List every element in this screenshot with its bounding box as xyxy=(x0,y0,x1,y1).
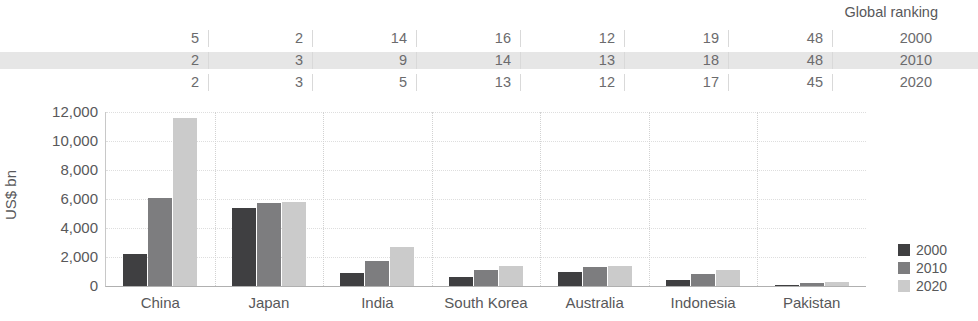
ranking-header-blank-6 xyxy=(729,4,833,24)
bar[interactable] xyxy=(583,267,607,286)
y-tick-label: 10,000 xyxy=(20,133,98,148)
y-tick-label: 2,000 xyxy=(20,249,98,264)
bar-group xyxy=(123,112,197,286)
ranking-header-blank-5 xyxy=(625,4,729,24)
plot-area: ChinaJapanIndiaSouth KoreaAustraliaIndon… xyxy=(105,112,866,287)
bar[interactable] xyxy=(825,282,849,286)
ranking-header-blank-2 xyxy=(313,4,417,24)
chart-area: US$ bn 02,0004,0006,0008,00010,00012,000… xyxy=(0,100,978,321)
bar[interactable] xyxy=(148,198,172,286)
bar[interactable] xyxy=(123,254,147,286)
bar[interactable] xyxy=(716,270,740,286)
ranking-header-blank-4 xyxy=(521,4,625,24)
rank-cell-pakistan-2000: 48 xyxy=(729,30,833,47)
x-axis-category-label: Australia xyxy=(540,294,649,311)
x-axis-category-label: Japan xyxy=(215,294,324,311)
rank-cell-australia-2010: 13 xyxy=(521,52,625,69)
category-divider xyxy=(215,112,216,286)
bar[interactable] xyxy=(608,266,632,286)
rank-cell-indonesia-2010: 18 xyxy=(625,52,729,69)
bar[interactable] xyxy=(499,266,523,286)
bar-group xyxy=(449,112,523,286)
bar[interactable] xyxy=(390,247,414,286)
y-axis-title: US$ bn xyxy=(2,170,19,220)
rank-cell-australia-2020: 12 xyxy=(521,74,625,91)
category-divider xyxy=(540,112,541,286)
bar[interactable] xyxy=(666,280,690,286)
x-axis-category-label: India xyxy=(323,294,432,311)
rank-cell-china-2000: 5 xyxy=(105,30,209,47)
bar[interactable] xyxy=(232,208,256,286)
y-tick-label: 12,000 xyxy=(20,104,98,119)
row-spacer xyxy=(0,74,105,91)
rank-cell-south-korea-2000: 16 xyxy=(417,30,521,47)
bar-group xyxy=(558,112,632,286)
category-divider xyxy=(323,112,324,286)
y-tick-label: 0 xyxy=(20,278,98,293)
rank-cell-china-2010: 2 xyxy=(105,52,209,69)
ranking-table-row: 2 3 5 13 12 17 45 2020 xyxy=(0,74,978,91)
chart-legend: 200020102020 xyxy=(898,242,947,296)
bar[interactable] xyxy=(449,277,473,286)
legend-item[interactable]: 2010 xyxy=(898,260,947,275)
category-divider xyxy=(757,112,758,286)
rank-row-label-2000: 2000 xyxy=(833,30,938,47)
legend-swatch-icon xyxy=(898,244,910,256)
ranking-table-title: Global ranking xyxy=(833,4,944,24)
rank-cell-south-korea-2020: 13 xyxy=(417,74,521,91)
gdp-bar-chart-figure: Global ranking 5 2 14 16 12 19 48 2000 2… xyxy=(0,0,978,321)
y-tick-label: 8,000 xyxy=(20,162,98,177)
bar[interactable] xyxy=(474,270,498,286)
bar[interactable] xyxy=(365,261,389,286)
rank-cell-australia-2000: 12 xyxy=(521,30,625,47)
x-axis-category-label: Indonesia xyxy=(649,294,758,311)
ranking-header-spacer xyxy=(0,4,105,24)
rank-cell-india-2010: 9 xyxy=(313,52,417,69)
legend-swatch-icon xyxy=(898,262,910,274)
ranking-table-row: 2 3 9 14 13 18 48 2010 xyxy=(0,52,978,69)
legend-item[interactable]: 2000 xyxy=(898,242,947,257)
rank-cell-pakistan-2010: 48 xyxy=(729,52,833,69)
y-tick-label: 4,000 xyxy=(20,220,98,235)
rank-cell-india-2000: 14 xyxy=(313,30,417,47)
bar-group xyxy=(340,112,414,286)
category-divider xyxy=(649,112,650,286)
rank-cell-japan-2020: 3 xyxy=(209,74,313,91)
bar-group xyxy=(775,112,849,286)
x-axis-category-label: Pakistan xyxy=(757,294,866,311)
legend-label: 2010 xyxy=(916,261,947,275)
ranking-header-blank-3 xyxy=(417,4,521,24)
bar[interactable] xyxy=(282,202,306,286)
x-axis-category-label: South Korea xyxy=(432,294,541,311)
ranking-table-header-row: Global ranking xyxy=(0,4,978,24)
ranking-header-blank-1 xyxy=(209,4,313,24)
bar[interactable] xyxy=(775,285,799,286)
rank-cell-pakistan-2020: 45 xyxy=(729,74,833,91)
rank-row-label-2020: 2020 xyxy=(833,74,938,91)
legend-label: 2020 xyxy=(916,279,947,293)
bar-group xyxy=(232,112,306,286)
bar[interactable] xyxy=(257,203,281,286)
ranking-table-row: 5 2 14 16 12 19 48 2000 xyxy=(0,30,978,47)
x-axis-category-label: China xyxy=(106,294,215,311)
row-spacer xyxy=(0,52,105,69)
y-axis-tick-labels: 02,0004,0006,0008,00010,00012,000 xyxy=(20,100,98,286)
legend-label: 2000 xyxy=(916,243,947,257)
bar[interactable] xyxy=(800,283,824,286)
rank-cell-india-2020: 5 xyxy=(313,74,417,91)
y-tick-label: 6,000 xyxy=(20,191,98,206)
row-spacer xyxy=(0,30,105,47)
ranking-header-blank-0 xyxy=(105,4,209,24)
legend-item[interactable]: 2020 xyxy=(898,278,947,293)
bar[interactable] xyxy=(173,118,197,286)
rank-cell-japan-2010: 3 xyxy=(209,52,313,69)
rank-cell-japan-2000: 2 xyxy=(209,30,313,47)
bar-group xyxy=(666,112,740,286)
rank-cell-south-korea-2010: 14 xyxy=(417,52,521,69)
bar[interactable] xyxy=(340,273,364,286)
bar[interactable] xyxy=(558,272,582,287)
legend-swatch-icon xyxy=(898,280,910,292)
bar[interactable] xyxy=(691,274,715,286)
rank-cell-indonesia-2000: 19 xyxy=(625,30,729,47)
rank-row-label-2010: 2010 xyxy=(833,52,938,69)
